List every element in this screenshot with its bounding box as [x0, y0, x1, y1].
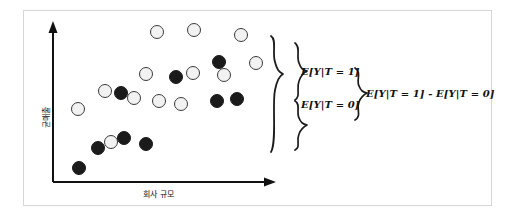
scatter-point-light [139, 67, 153, 81]
scatter-point-dark [212, 55, 226, 69]
arrow-right-icon [264, 178, 276, 187]
scatter-point-dark [169, 70, 183, 84]
scatter-point-light [71, 102, 85, 116]
scatter-point-dark [114, 86, 128, 100]
scatter-point-dark [139, 137, 153, 151]
y-axis-label: 균매출 [40, 128, 61, 139]
scatter-point-dark [72, 161, 86, 175]
arrow-up-icon [49, 21, 58, 33]
scatter-point-dark [230, 92, 244, 106]
scatter-point-light [104, 135, 118, 149]
y-axis-label-text: 균매출 [40, 107, 51, 128]
scatter-point-dark [117, 131, 131, 145]
x-axis-label: 회사 규모 [143, 188, 174, 199]
scatter-point-light [98, 84, 112, 98]
treated-mean-label: E[Y|T = 1] [301, 66, 360, 77]
brace-outer-icon [271, 36, 283, 152]
scatter-point-light [152, 94, 166, 108]
scatter-point-light [186, 66, 200, 80]
control-mean-label: E[Y|T = 0] [301, 99, 360, 110]
scatter-point-dark [210, 94, 224, 108]
figure-root: 회사 규모 균매출 E[Y|T = 1] E[Y|T = 0] E[Y|T = … [0, 0, 512, 219]
scatter-point-light [217, 68, 231, 82]
scatter-point-light [234, 28, 248, 42]
scatter-point-dark [91, 141, 105, 155]
scatter-point-light [150, 25, 164, 39]
scatter-point-light [174, 97, 188, 111]
scatter-point-light [127, 91, 141, 105]
scatter-point-light [187, 23, 201, 37]
difference-label: E[Y|T = 1] - E[Y|T = 0] [366, 88, 495, 99]
scatter-point-light [249, 56, 263, 70]
